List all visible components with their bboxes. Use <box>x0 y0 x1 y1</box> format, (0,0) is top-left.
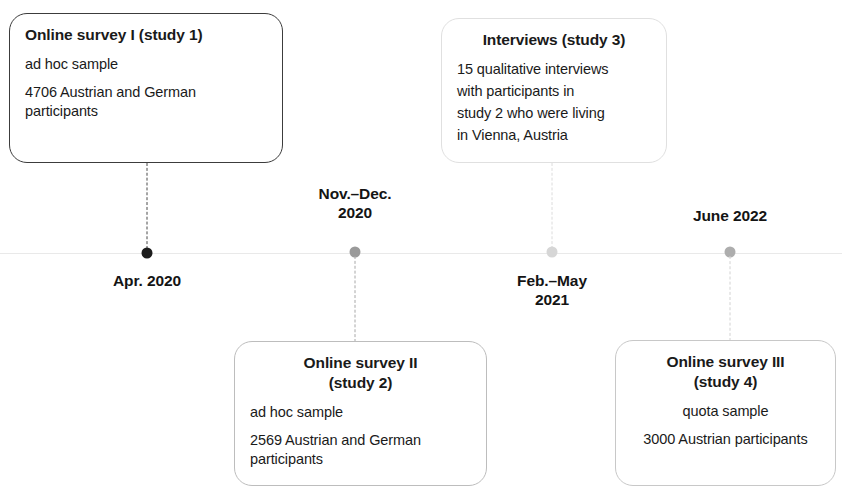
connector-study-4 <box>730 256 731 341</box>
card-title-study-2: Online survey II (study 2) <box>250 353 471 393</box>
card-line-study-2-1: 2569 Austrian and German participants <box>250 431 471 469</box>
event-card-study-1[interactable]: Online survey I (study 1) ad hoc sample … <box>9 13 283 163</box>
card-line-study-4-1: 3000 Austrian participants <box>631 430 820 449</box>
event-card-study-4[interactable]: Online survey III (study 4) quota sample… <box>615 340 836 486</box>
card-title-study-3: Interviews (study 3) <box>457 30 651 50</box>
date-label-study-4: June 2022 <box>630 207 830 226</box>
card-line-study-1-0: ad hoc sample <box>25 55 267 74</box>
timeline-marker-study-3[interactable] <box>547 247 558 258</box>
event-card-study-3[interactable]: Interviews (study 3) 15 qualitative inte… <box>441 18 667 163</box>
card-line-study-3-2: study 2 who were living <box>457 104 651 123</box>
card-line-study-3-0: 15 qualitative interviews <box>457 60 651 79</box>
date-label-study-1: Apr. 2020 <box>47 272 247 291</box>
timeline-marker-study-1[interactable] <box>142 248 153 259</box>
timeline-axis <box>0 253 842 254</box>
card-title-study-4: Online survey III (study 4) <box>631 352 820 392</box>
card-line-study-4-0: quota sample <box>631 402 820 421</box>
date-label-study-2: Nov.–Dec. 2020 <box>255 185 455 223</box>
card-line-study-3-3: in Vienna, Austria <box>457 126 651 145</box>
connector-study-1 <box>147 163 148 249</box>
connector-study-3 <box>552 163 553 249</box>
event-card-study-2[interactable]: Online survey II (study 2) ad hoc sample… <box>234 341 487 486</box>
card-title-study-1: Online survey I (study 1) <box>25 25 267 45</box>
connector-study-2 <box>355 256 356 342</box>
card-line-study-3-1: with participants in <box>457 82 651 101</box>
card-line-study-1-1: 4706 Austrian and German participants <box>25 83 267 121</box>
date-label-study-3: Feb.–May 2021 <box>452 272 652 310</box>
card-line-study-2-0: ad hoc sample <box>250 403 471 422</box>
